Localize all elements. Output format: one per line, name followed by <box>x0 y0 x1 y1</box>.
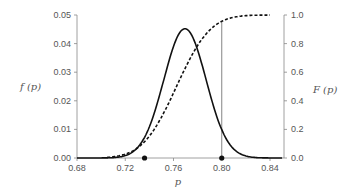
right-y-ticks: 0.00.20.40.60.81.0 <box>284 10 304 163</box>
chart: 0.000.010.020.030.040.05 0.00.20.40.60.8… <box>0 0 359 196</box>
x-ticks: 0.680.720.760.800.84 <box>68 158 279 173</box>
x-tick-label: 0.68 <box>68 163 86 173</box>
right-tick-label: 0.8 <box>291 39 304 49</box>
x-tick-label: 0.76 <box>165 163 183 173</box>
left-tick-label: 0.01 <box>53 124 71 134</box>
left-tick-label: 0.05 <box>53 10 71 20</box>
marker-dot <box>142 155 147 160</box>
marker-dot <box>219 155 224 160</box>
x-tick-label: 0.80 <box>213 163 231 173</box>
left-tick-label: 0.04 <box>53 39 71 49</box>
left-y-ticks: 0.000.010.020.030.040.05 <box>53 10 77 163</box>
right-tick-label: 1.0 <box>291 10 304 20</box>
cdf-curve <box>107 15 270 157</box>
left-y-label: f (p) <box>19 81 41 92</box>
x-label: p <box>175 176 182 187</box>
pdf-curve <box>77 29 282 158</box>
right-y-label: F (p) <box>312 84 337 95</box>
left-tick-label: 0.03 <box>53 67 71 77</box>
right-tick-label: 0.2 <box>291 124 304 134</box>
right-tick-label: 0.0 <box>291 153 304 163</box>
right-tick-label: 0.4 <box>291 96 304 106</box>
left-tick-label: 0.00 <box>53 153 71 163</box>
right-tick-label: 0.6 <box>291 67 304 77</box>
left-tick-label: 0.02 <box>53 96 71 106</box>
x-tick-label: 0.84 <box>261 163 279 173</box>
x-tick-label: 0.72 <box>116 163 134 173</box>
